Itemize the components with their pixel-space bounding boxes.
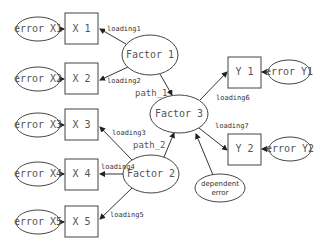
node-error-x1[interactable]: error X1	[14, 17, 62, 41]
node-error-x5[interactable]: error X5	[14, 210, 62, 234]
node-label: X 4	[72, 168, 90, 179]
node-label: Y 1	[235, 66, 253, 77]
edge-dErr-F3	[196, 134, 213, 175]
node-label: error X1	[14, 23, 62, 34]
node-label: error X3	[14, 119, 62, 130]
node-label: X 3	[72, 119, 90, 130]
node-label: error X4	[14, 168, 62, 179]
node-error-x3[interactable]: error X3	[14, 113, 62, 137]
node-label: X 5	[72, 216, 90, 227]
node-x1[interactable]: X 1	[65, 13, 98, 44]
node-label: error X2	[14, 73, 62, 84]
node-error-y1[interactable]: error Y1	[265, 60, 313, 84]
sem-diagram: error X1 error X2 error X3 error X4 erro…	[0, 0, 322, 252]
edge-label-loading3: loading3	[112, 129, 146, 137]
edge-label-loading6: loading6	[216, 94, 250, 102]
node-label: X 1	[72, 23, 90, 34]
node-x3[interactable]: X 3	[65, 109, 98, 140]
node-error-x4[interactable]: error X4	[14, 162, 62, 186]
edge-F3-Y2	[199, 128, 227, 150]
node-label: X 2	[72, 73, 90, 84]
node-error-y2[interactable]: error Y2	[266, 137, 314, 161]
edge-label-loading2: loading2	[107, 77, 141, 85]
node-label: Factor 1	[126, 49, 174, 60]
edge-label-path2: path_2	[133, 140, 166, 150]
node-x4[interactable]: X 4	[65, 159, 98, 190]
edge-label-loading5: loading5	[110, 211, 144, 219]
node-factor-3[interactable]: Factor 3	[150, 95, 208, 133]
node-label: Y 2	[235, 143, 253, 154]
node-label: error Y1	[265, 66, 313, 77]
edge-label-loading4: loading4	[101, 163, 135, 171]
node-label: dependent	[201, 180, 239, 188]
edge-label-loading7: loading7	[215, 122, 249, 130]
node-label: error Y2	[266, 143, 314, 154]
node-error-x2[interactable]: error X2	[14, 67, 62, 91]
node-y1[interactable]: Y 1	[228, 57, 261, 88]
node-x5[interactable]: X 5	[65, 206, 98, 237]
node-label: error	[212, 189, 229, 197]
node-y2[interactable]: Y 2	[228, 134, 261, 165]
node-x2[interactable]: X 2	[65, 63, 98, 94]
node-dependent-error[interactable]: dependent error	[195, 174, 245, 202]
latent-nodes: Factor 1 Factor 2 Factor 3	[122, 35, 208, 193]
edge-label-path1: path_1	[135, 88, 168, 98]
node-label: Factor 3	[155, 108, 203, 119]
node-factor-2[interactable]: Factor 2	[123, 155, 179, 193]
edge-label-loading1: loading1	[107, 25, 141, 33]
node-factor-1[interactable]: Factor 1	[122, 35, 178, 75]
node-label: error X5	[14, 216, 62, 227]
